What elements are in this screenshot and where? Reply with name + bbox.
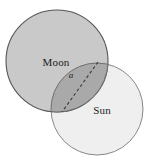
moon-label: Moon — [42, 56, 69, 68]
geometry-diagram-svg: Moon Sun a — [0, 0, 152, 166]
sun-label: Sun — [93, 104, 111, 116]
chord-length-label: a — [69, 70, 74, 80]
figure-container: Moon Sun a — [0, 0, 152, 166]
